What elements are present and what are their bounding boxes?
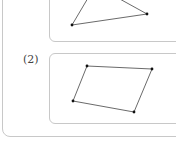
- triangle-figure: [72, 0, 147, 25]
- quadrilateral-vertices: [72, 65, 154, 114]
- quadrilateral-figure: [73, 66, 152, 112]
- shapes-canvas: [0, 0, 176, 141]
